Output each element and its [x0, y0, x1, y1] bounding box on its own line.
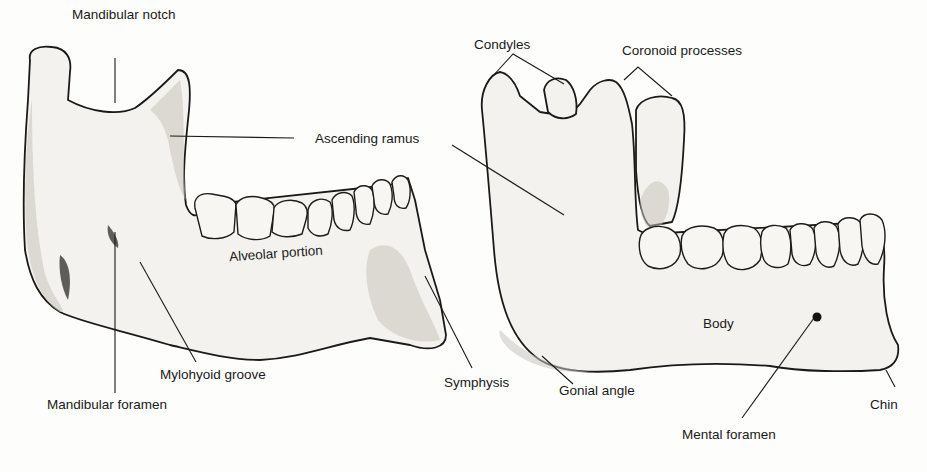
- label-mylohyoid-groove: Mylohyoid groove: [160, 368, 266, 382]
- label-mandibular-foramen: Mandibular foramen: [47, 398, 167, 412]
- label-chin: Chin: [870, 398, 898, 412]
- mental-foramen-dot: [813, 313, 822, 322]
- leader-chin: [886, 370, 895, 387]
- label-symphysis: Symphysis: [444, 376, 509, 390]
- label-mental-foramen: Mental foramen: [682, 428, 776, 442]
- leader-ascending-ramus-left: [170, 136, 294, 138]
- label-condyles: Condyles: [474, 38, 530, 52]
- label-ascending-ramus: Ascending ramus: [315, 132, 419, 146]
- label-gonial-angle: Gonial angle: [559, 384, 635, 398]
- right-mandible-drawing: [482, 72, 899, 372]
- mandible-figure: Mandibular notch Ascending ramus Alveola…: [0, 0, 927, 472]
- label-body: Body: [703, 317, 734, 331]
- leader-coronoid-processes: [624, 67, 672, 96]
- label-coronoid-processes: Coronoid processes: [622, 44, 742, 58]
- left-mandible-drawing: [24, 47, 446, 360]
- label-mandibular-notch: Mandibular notch: [72, 8, 176, 22]
